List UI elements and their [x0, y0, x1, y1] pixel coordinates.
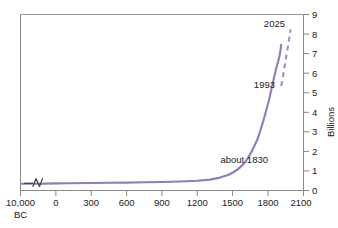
- y-tick-label-4: 4: [312, 107, 317, 118]
- x-tick-labels: 10,000 BC 0 300 600 900 1200 1500 1800 2…: [6, 197, 312, 220]
- y-axis-title: Billions: [325, 107, 336, 137]
- x-tick-label-3: 600: [119, 197, 135, 208]
- x-tick-label-2: 300: [83, 197, 99, 208]
- x-tick-label-4: 900: [154, 197, 170, 208]
- axis-break-icon: [24, 179, 43, 187]
- x-tick-label-1: 0: [53, 197, 58, 208]
- population-growth-chart: 10,000 BC 0 300 600 900 1200 1500 1800 2…: [0, 0, 338, 228]
- y-tick-labels: 0 1 2 3 4 5 6 7 8 9: [312, 9, 317, 196]
- chart-canvas: 10,000 BC 0 300 600 900 1200 1500 1800 2…: [0, 0, 338, 228]
- y-tick-label-7: 7: [312, 48, 317, 59]
- x-tick-label-7: 1800: [257, 197, 278, 208]
- y-tick-label-3: 3: [312, 126, 317, 137]
- annotation-2025: 2025: [264, 18, 285, 29]
- x-tick-label-0: 10,000: [6, 197, 35, 208]
- y-tick-label-5: 5: [312, 87, 317, 98]
- y-axis-ticks: [304, 15, 310, 191]
- y-tick-label-6: 6: [312, 68, 317, 79]
- y-tick-label-8: 8: [312, 29, 317, 40]
- x-tick-label-6: 1500: [222, 197, 243, 208]
- x-tick-label-8: 2100: [290, 197, 311, 208]
- x-tick-label-5: 1200: [187, 197, 208, 208]
- y-tick-label-9: 9: [312, 9, 317, 20]
- population-line-projected: [281, 30, 290, 87]
- y-tick-label-0: 0: [312, 185, 317, 196]
- x-axis-ticks: [21, 191, 304, 197]
- y-tick-label-1: 1: [312, 165, 317, 176]
- annotation-1993: 1993: [254, 79, 275, 90]
- x-tick-sublabel-bc: BC: [14, 209, 27, 220]
- y-tick-label-2: 2: [312, 146, 317, 157]
- annotation-about-1830: about 1830: [220, 154, 268, 165]
